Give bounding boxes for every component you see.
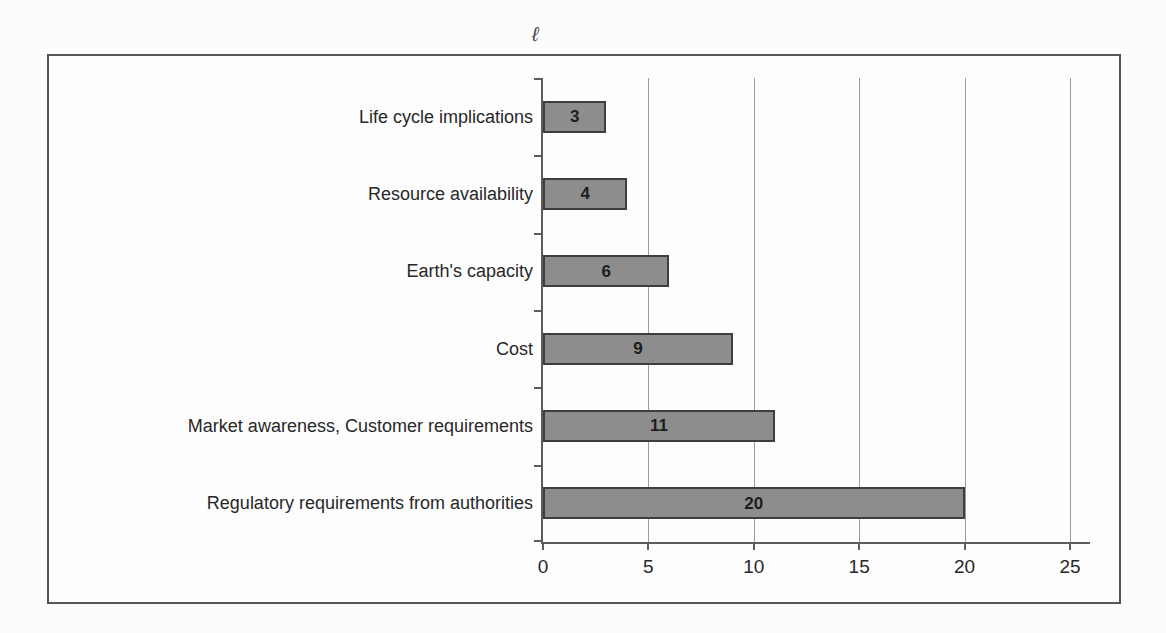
bar: 4: [543, 178, 627, 210]
x-tick-label-5: 5: [643, 556, 654, 578]
bar-value-label: 11: [650, 417, 668, 434]
gridline-25: [1070, 78, 1071, 542]
gridline-5: [648, 78, 649, 542]
bar: 6: [543, 255, 669, 287]
chart-row: Market awareness, Customer requirements1…: [543, 387, 1070, 464]
category-label: Market awareness, Customer requirements: [188, 415, 533, 436]
y-axis-tick-3: [534, 310, 542, 312]
gridline-20: [965, 78, 966, 542]
x-axis-tick-10: [753, 542, 755, 550]
gridline-15: [859, 78, 860, 542]
category-label: Life cycle implications: [359, 106, 533, 127]
x-tick-label-25: 25: [1059, 556, 1080, 578]
chart-row: Earth's capacity6: [543, 233, 1070, 310]
gridline-10: [754, 78, 755, 542]
x-axis-tick-0: [542, 542, 544, 550]
chart-frame: 0510152025Life cycle implications3Resour…: [47, 54, 1121, 604]
bar-value-label: 6: [602, 263, 611, 280]
x-tick-label-10: 10: [743, 556, 764, 578]
chart-row: Cost9: [543, 310, 1070, 387]
bar: 20: [543, 487, 965, 519]
category-label: Cost: [496, 338, 533, 359]
plot-area: 0510152025Life cycle implications3Resour…: [543, 78, 1070, 542]
category-label: Earth's capacity: [407, 261, 534, 282]
y-axis-tick-1: [534, 155, 542, 157]
chart-row: Life cycle implications3: [543, 78, 1070, 155]
chart-row: Resource availability4: [543, 155, 1070, 232]
stray-scan-mark: ℓ: [532, 24, 538, 44]
x-tick-label-15: 15: [849, 556, 870, 578]
y-axis-tick-0: [534, 78, 542, 80]
bar: 3: [543, 101, 606, 133]
y-axis-tick-6: [534, 540, 542, 542]
category-label: Resource availability: [368, 183, 533, 204]
chart-row: Regulatory requirements from authorities…: [543, 465, 1070, 542]
y-axis-tick-5: [534, 465, 542, 467]
bar: 9: [543, 333, 733, 365]
x-tick-label-20: 20: [954, 556, 975, 578]
x-tick-label-0: 0: [538, 556, 549, 578]
bar-value-label: 3: [570, 108, 579, 125]
bar-value-label: 9: [633, 340, 642, 357]
category-label: Regulatory requirements from authorities: [207, 493, 533, 514]
bar-value-label: 4: [580, 185, 589, 202]
bar-value-label: 20: [744, 495, 763, 512]
bar: 11: [543, 410, 775, 442]
x-axis-tick-25: [1069, 542, 1071, 550]
x-axis-tick-5: [647, 542, 649, 550]
scanned-chart-page: ℓ 0510152025Life cycle implications3Reso…: [0, 0, 1166, 633]
y-axis-tick-2: [534, 233, 542, 235]
x-axis-line: [541, 542, 1090, 544]
y-axis-tick-4: [534, 387, 542, 389]
x-axis-tick-20: [964, 542, 966, 550]
x-axis-tick-15: [858, 542, 860, 550]
